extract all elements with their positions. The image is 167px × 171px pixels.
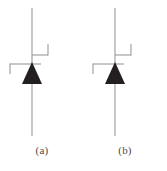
caption-a: (a) xyxy=(0,143,84,157)
caption-b: (b) xyxy=(83,143,167,157)
thyristor-symbol-a xyxy=(0,0,84,140)
figure-canvas: (a) (b) xyxy=(0,0,167,171)
thyristor-triangle-a xyxy=(22,62,42,84)
symbol-figure-a: (a) xyxy=(0,0,84,171)
symbol-figure-b: (b) xyxy=(83,0,167,171)
thyristor-symbol-b xyxy=(83,0,167,140)
thyristor-triangle-b xyxy=(105,62,125,84)
